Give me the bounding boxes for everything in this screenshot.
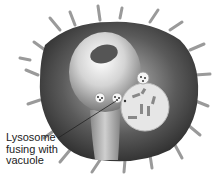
lysosome-label: Lysosome fusing with vacuole (6, 132, 58, 167)
cell-stalk (90, 110, 120, 160)
